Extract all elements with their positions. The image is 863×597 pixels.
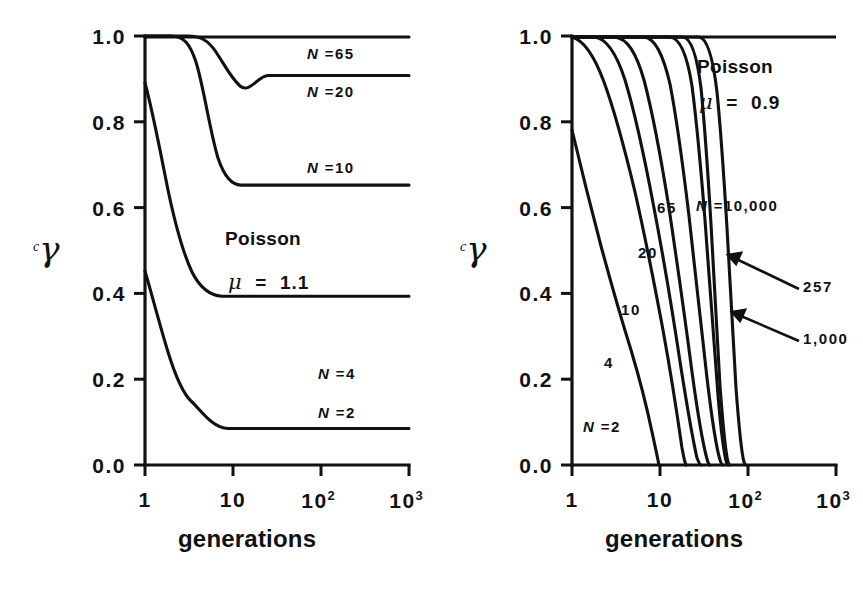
curve-label-var: N (307, 83, 319, 100)
x-tick-label-100: 102 (288, 489, 348, 511)
curve-label-n20: 20 (638, 245, 658, 260)
curve-label-var: N (318, 365, 330, 382)
y-tick-label-0-2: 0.2 (485, 369, 553, 390)
x-tick-label-1: 1 (115, 489, 175, 510)
curve-label-n10: N =10 (307, 160, 354, 175)
x-tick-base: 1 (565, 488, 578, 511)
curve-label-eq: = (336, 404, 346, 421)
curve-label-var: N (307, 159, 319, 176)
x-tick-base: 1 (138, 488, 151, 511)
y-tick-label-0-0: 0.0 (58, 455, 126, 476)
x-tick-base: 10 (816, 489, 842, 512)
x-tick-base: 10 (301, 489, 327, 512)
callout-arrow-line-257 (730, 256, 799, 289)
curve-label-value: 10,000 (724, 197, 778, 214)
curve-label-eq: = (325, 159, 335, 176)
mu-equals: = (726, 92, 738, 113)
curve-label-value: 20 (335, 83, 355, 100)
x-axis-title: generations (178, 527, 316, 551)
figure-root: 1.0 0.8 0.6 0.4 0.2 0.0 1 10 102 103 gen… (0, 0, 863, 597)
note-mu-left: μ = 1.1 (228, 272, 309, 293)
curve-label-eq: = (601, 418, 611, 435)
x-tick-label-1000: 103 (376, 489, 436, 511)
curve-label-var: N (307, 45, 319, 62)
curve-label-value: 10 (335, 159, 355, 176)
x-tick-exponent: 2 (755, 488, 762, 503)
curve-label-value: 2 (346, 404, 356, 421)
curve-label-eq: = (336, 365, 346, 382)
curve-label-value: 2 (611, 418, 621, 435)
curve-label-n2: N =2 (318, 405, 356, 420)
x-tick-label-1: 1 (542, 489, 602, 510)
curve-right-n2 (572, 130, 659, 465)
x-tick-label-100: 102 (715, 489, 775, 511)
x-tick-exponent: 3 (843, 488, 850, 503)
curve-label-n20: N =20 (307, 84, 354, 99)
chart-panel-left: 1.0 0.8 0.6 0.4 0.2 0.0 1 10 102 103 gen… (0, 0, 432, 597)
curve-left-n20 (145, 36, 409, 88)
curve-label-var: N (696, 197, 708, 214)
y-axis-title: cγ (33, 232, 60, 266)
callout-arrows (728, 253, 799, 341)
curve-left-n4 (145, 83, 409, 296)
note-distribution-right: Poisson (697, 57, 773, 76)
x-tick-base: 10 (647, 488, 673, 511)
y-tick-label-0-4: 0.4 (485, 283, 553, 304)
curve-label-value: 4 (346, 365, 356, 382)
y-tick-label-0-4: 0.4 (58, 283, 126, 304)
y-tick-label-0-8: 0.8 (58, 112, 126, 133)
y-tick-label-1-0: 1.0 (485, 26, 553, 47)
note-mu-right: μ = 0.9 (699, 92, 780, 113)
note-distribution-left: Poisson (225, 229, 301, 248)
curve-right-n4 (572, 37, 686, 465)
curve-right-n10 (572, 37, 701, 465)
curve-label-n65: N =65 (307, 46, 354, 61)
y-axis-title-gamma: γ (466, 229, 486, 269)
x-tick-label-10: 10 (630, 489, 690, 510)
chart-panel-right: 1.0 0.8 0.6 0.4 0.2 0.0 1 10 102 103 gen… (431, 0, 863, 597)
callout-arrow-line-1000 (734, 313, 799, 341)
x-tick-label-1000: 103 (803, 489, 863, 511)
mu-symbol: μ (699, 90, 714, 114)
curve-label-var: N (583, 418, 595, 435)
x-tick-exponent: 2 (328, 488, 335, 503)
callout-label-1000: 1,000 (803, 331, 849, 346)
y-ticks-left (134, 36, 145, 465)
mu-symbol: μ (228, 270, 243, 294)
curve-label-var: N (318, 404, 330, 421)
curve-label-eq: = (325, 45, 335, 62)
callout-arrow-head-1000 (732, 310, 745, 321)
y-tick-label-0-6: 0.6 (58, 198, 126, 219)
x-ticks-left (145, 465, 409, 476)
y-tick-label-0-6: 0.6 (485, 198, 553, 219)
x-tick-exponent: 3 (416, 488, 423, 503)
curve-label-eq: = (714, 197, 724, 214)
callout-label-257: 257 (803, 279, 833, 294)
y-tick-label-0-8: 0.8 (485, 112, 553, 133)
y-axis-title: cγ (460, 232, 487, 266)
y-axis-title-gamma: γ (39, 229, 59, 269)
curve-left-n10 (145, 36, 409, 185)
x-ticks-right (572, 465, 836, 476)
y-tick-label-0-0: 0.0 (485, 455, 553, 476)
y-tick-label-0-2: 0.2 (58, 369, 126, 390)
mu-equals: = (255, 272, 267, 293)
curve-label-n2: N =2 (583, 419, 621, 434)
mu-value: 0.9 (751, 92, 780, 113)
x-tick-label-10: 10 (203, 489, 263, 510)
curve-label-value: 65 (335, 45, 355, 62)
mu-value: 1.1 (280, 272, 309, 293)
curve-label-n10000: N =10,000 (696, 198, 778, 213)
y-tick-label-1-0: 1.0 (58, 26, 126, 47)
curve-label-n4: 4 (604, 355, 614, 370)
y-ticks-right (561, 36, 572, 465)
x-tick-base: 10 (728, 489, 754, 512)
curve-label-n4: N =4 (318, 366, 356, 381)
curve-label-n65: 65 (657, 200, 677, 215)
x-tick-base: 10 (220, 488, 246, 511)
curve-label-n10: 10 (621, 302, 641, 317)
curve-left-n2 (145, 271, 409, 429)
x-axis-title: generations (605, 527, 743, 551)
x-tick-base: 10 (389, 489, 415, 512)
curve-label-eq: = (325, 83, 335, 100)
